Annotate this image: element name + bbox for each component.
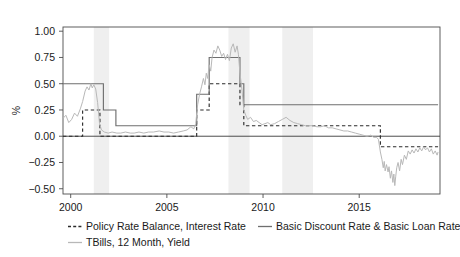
y-tick-label: 1.00 — [35, 25, 56, 37]
line-chart: 1.000.750.500.250.00−0.25−0.50 200020052… — [0, 0, 460, 257]
y-tick-label: −0.25 — [28, 156, 55, 168]
x-tick-label: 2005 — [155, 201, 179, 213]
legend-label: TBills, 12 Month, Yield — [86, 236, 190, 248]
recession-band — [282, 27, 313, 194]
y-tick-label: 0.00 — [35, 130, 56, 142]
legend-label: Basic Discount Rate & Basic Loan Rate — [276, 220, 460, 232]
x-tick-label: 2010 — [251, 201, 275, 213]
x-tick-label: 2000 — [59, 201, 83, 213]
chart-container: 1.000.750.500.250.00−0.25−0.50 200020052… — [0, 0, 460, 257]
y-axis-title: % — [10, 106, 22, 115]
y-tick-label: 0.75 — [35, 51, 56, 63]
legend-label: Policy Rate Balance, Interest Rate — [86, 220, 246, 232]
y-axis-title-text: % — [10, 106, 22, 115]
y-tick-label: −0.50 — [28, 183, 55, 195]
y-tick-label: 0.50 — [35, 78, 56, 90]
recession-band — [228, 27, 249, 194]
x-tick-label: 2015 — [348, 201, 372, 213]
y-tick-label: 0.25 — [35, 104, 56, 116]
